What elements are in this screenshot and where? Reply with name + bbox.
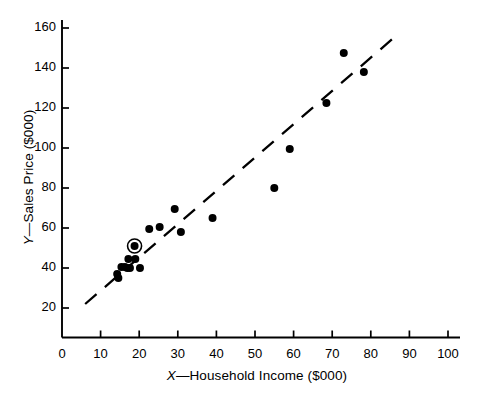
x-axis-title: X—Household Income ($000) (62, 368, 452, 383)
x-tick-label: 90 (389, 346, 429, 361)
scatter-plot-canvas (0, 0, 483, 395)
y-axis-title-prefix: Y (21, 236, 36, 245)
data-point (270, 184, 278, 192)
trendline-dashed (85, 36, 396, 304)
y-tick-label: 40 (22, 259, 56, 274)
x-axis-title-rest: —Household Income ($000) (176, 368, 347, 383)
data-point (131, 255, 139, 263)
data-point (322, 99, 330, 107)
data-point (131, 242, 139, 250)
x-tick-label: 0 (42, 346, 82, 361)
data-point (360, 68, 368, 76)
x-tick-label: 70 (312, 346, 352, 361)
y-tick-label: 80 (22, 179, 56, 194)
data-point (286, 145, 294, 153)
x-tick-label: 60 (274, 346, 314, 361)
y-tick-label: 120 (22, 99, 56, 114)
y-tick-label: 140 (22, 59, 56, 74)
data-point (124, 255, 132, 263)
chart-figure: Y—Sales Price ($000) X—Household Income … (0, 0, 483, 395)
y-tick-label: 60 (22, 219, 56, 234)
plot-axes (62, 20, 460, 338)
y-tick-label: 100 (22, 139, 56, 154)
data-point (171, 205, 179, 213)
data-point (145, 225, 153, 233)
data-point (340, 49, 348, 57)
x-axis-title-prefix: X (167, 368, 176, 383)
x-tick-label: 20 (119, 346, 159, 361)
data-point (156, 223, 164, 231)
data-point (209, 214, 217, 222)
data-point (114, 274, 122, 282)
x-tick-label: 100 (428, 346, 468, 361)
y-axis-title-rest: —Sales Price ($000) (21, 110, 36, 236)
x-tick-label: 50 (235, 346, 275, 361)
data-point (177, 228, 185, 236)
y-tick-label: 20 (22, 299, 56, 314)
x-tick-label: 80 (351, 346, 391, 361)
x-tick-label: 30 (158, 346, 198, 361)
y-tick-label: 160 (22, 19, 56, 34)
data-point (136, 264, 144, 272)
x-tick-label: 10 (81, 346, 121, 361)
x-tick-label: 40 (196, 346, 236, 361)
data-point (126, 264, 134, 272)
